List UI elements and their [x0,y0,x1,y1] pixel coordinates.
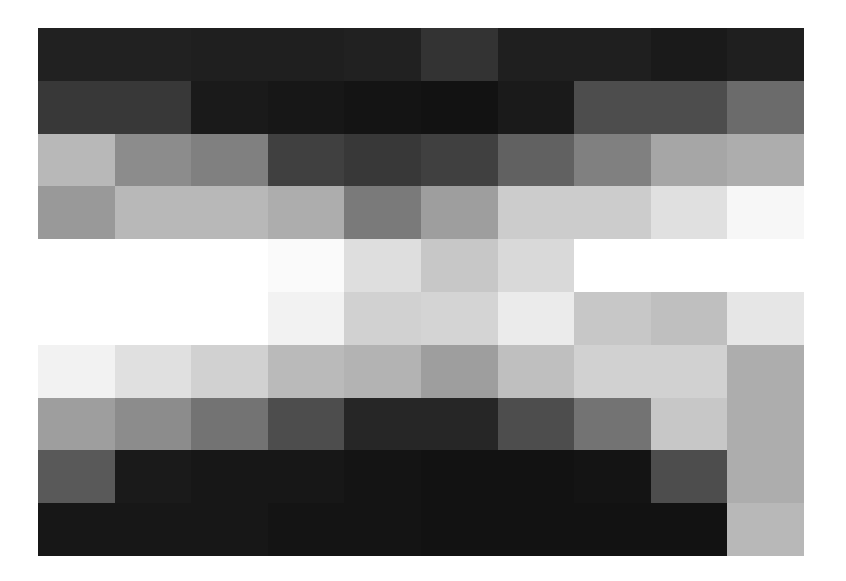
heatmap-cell [344,28,421,81]
heatmap-cell [344,134,421,187]
heatmap-cell [268,450,345,503]
heatmap-cell [38,345,115,398]
heatmap-cell [38,186,115,239]
heatmap-cell [115,503,192,556]
heatmap-cell [651,134,728,187]
heatmap-cell [344,81,421,134]
heatmap-cell [574,186,651,239]
heatmap-cell [651,450,728,503]
heatmap-cell [344,186,421,239]
heatmap-cell [727,186,804,239]
heatmap-cell [727,28,804,81]
heatmap-cell [498,345,575,398]
heatmap-cell [421,503,498,556]
heatmap-cell [421,292,498,345]
heatmap-cell [268,503,345,556]
heatmap-cell [268,398,345,451]
heatmap-grid [38,28,804,556]
heatmap-cell [421,398,498,451]
heatmap-cell [651,81,728,134]
heatmap-cell [115,239,192,292]
heatmap-cell [115,345,192,398]
heatmap-cell [498,398,575,451]
heatmap-cell [498,81,575,134]
heatmap-cell [344,292,421,345]
heatmap-cell [268,239,345,292]
heatmap-cell [574,398,651,451]
heatmap-cell [268,345,345,398]
heatmap-cell [344,503,421,556]
heatmap-cell [115,450,192,503]
heatmap-cell [344,239,421,292]
heatmap-cell [268,28,345,81]
heatmap-cell [268,81,345,134]
heatmap-cell [191,450,268,503]
heatmap-cell [191,134,268,187]
heatmap-cell [574,239,651,292]
heatmap-cell [38,503,115,556]
heatmap-cell [727,503,804,556]
heatmap-cell [651,398,728,451]
heatmap-cell [574,81,651,134]
heatmap-cell [38,398,115,451]
heatmap-cell [191,398,268,451]
heatmap-cell [38,28,115,81]
heatmap-cell [344,398,421,451]
heatmap-cell [727,292,804,345]
heatmap-cell [727,134,804,187]
heatmap-cell [651,186,728,239]
heatmap-cell [115,292,192,345]
heatmap-cell [421,450,498,503]
heatmap-cell [651,28,728,81]
heatmap-cell [727,398,804,451]
heatmap-cell [498,239,575,292]
heatmap-cell [191,186,268,239]
heatmap-cell [727,450,804,503]
heatmap-cell [38,292,115,345]
heatmap-cell [191,503,268,556]
heatmap-cell [191,345,268,398]
heatmap-cell [268,134,345,187]
heatmap-cell [498,134,575,187]
heatmap-cell [727,345,804,398]
heatmap-cell [268,186,345,239]
heatmap-cell [38,134,115,187]
heatmap-cell [191,28,268,81]
heatmap-cell [421,81,498,134]
heatmap-cell [268,292,345,345]
heatmap-cell [574,28,651,81]
heatmap-cell [115,134,192,187]
heatmap-cell [574,503,651,556]
heatmap-cell [651,292,728,345]
heatmap-cell [574,134,651,187]
heatmap-cell [421,28,498,81]
heatmap-cell [191,81,268,134]
heatmap-cell [421,134,498,187]
heatmap-cell [498,292,575,345]
heatmap-cell [115,398,192,451]
heatmap-cell [498,186,575,239]
heatmap-cell [651,345,728,398]
heatmap-cell [115,186,192,239]
heatmap-cell [38,239,115,292]
heatmap-cell [115,81,192,134]
heatmap-cell [344,345,421,398]
heatmap-cell [38,450,115,503]
heatmap-cell [191,292,268,345]
heatmap-cell [574,345,651,398]
heatmap-cell [498,28,575,81]
heatmap-cell [115,28,192,81]
heatmap-cell [574,292,651,345]
heatmap-cell [498,503,575,556]
heatmap-cell [191,239,268,292]
heatmap-cell [421,186,498,239]
heatmap-cell [727,81,804,134]
heatmap-cell [38,81,115,134]
heatmap-cell [651,239,728,292]
heatmap-cell [498,450,575,503]
heatmap-cell [651,503,728,556]
heatmap-cell [421,239,498,292]
heatmap-cell [421,345,498,398]
heatmap-cell [727,239,804,292]
heatmap-cell [344,450,421,503]
